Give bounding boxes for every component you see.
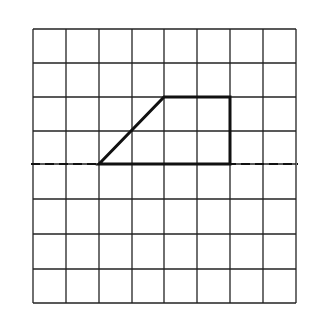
grid-diagram <box>0 0 314 319</box>
grid-lines <box>33 29 296 303</box>
